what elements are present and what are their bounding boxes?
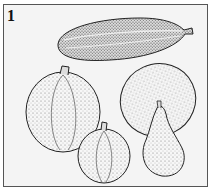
squash-illustration xyxy=(0,0,212,193)
zucchini-drawing xyxy=(58,18,193,60)
